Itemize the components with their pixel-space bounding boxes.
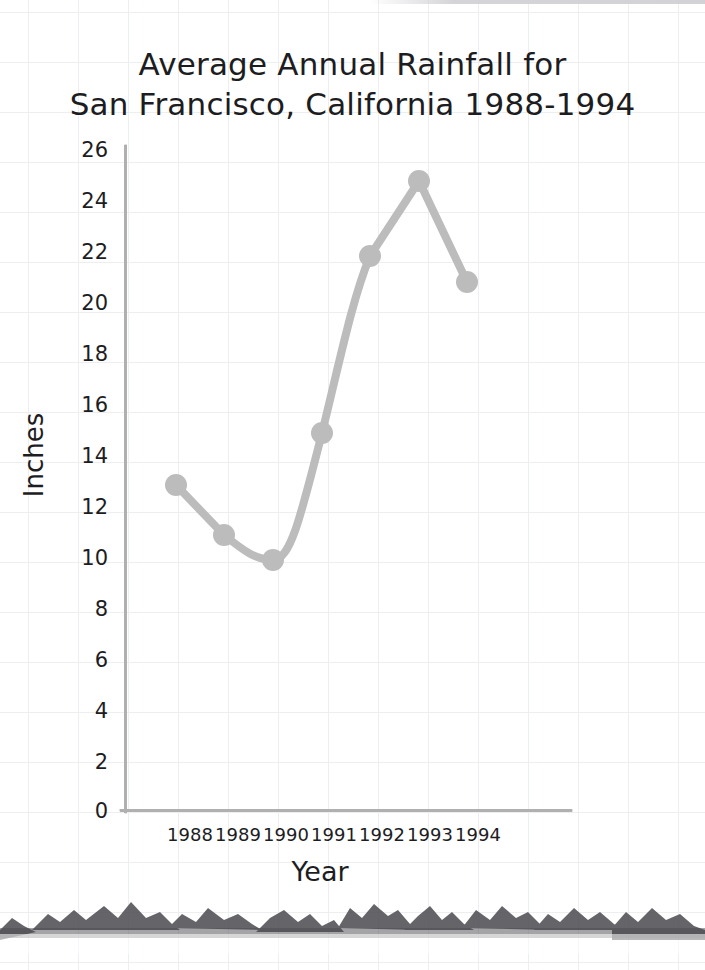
y-tick-label: 18 <box>62 342 108 366</box>
y-tick-label: 20 <box>62 291 108 315</box>
data-point-marker[interactable] <box>359 245 381 267</box>
y-tick-label: 6 <box>62 648 108 672</box>
data-point-marker[interactable] <box>408 170 430 192</box>
y-axis-spine <box>125 149 126 809</box>
y-tick-label: 0 <box>62 799 108 823</box>
y-tick-label: 24 <box>62 189 108 213</box>
y-tick-label: 2 <box>62 750 108 774</box>
data-point-marker[interactable] <box>213 524 235 546</box>
x-tick-label: 1994 <box>443 824 513 845</box>
y-tick-label: 4 <box>62 699 108 723</box>
y-tick-label: 26 <box>62 138 108 162</box>
rainfall-data-line <box>176 181 467 560</box>
y-axis-tick-labels: 26 24 22 20 18 16 14 12 10 8 6 4 2 0 <box>62 0 108 970</box>
mountain-border-icon <box>0 884 705 954</box>
data-point-marker[interactable] <box>456 271 478 293</box>
y-axis-title: Inches <box>19 395 49 515</box>
y-tick-label: 14 <box>62 444 108 468</box>
data-point-marker[interactable] <box>311 422 333 444</box>
y-tick-label: 12 <box>62 495 108 519</box>
x-axis-title: Year <box>0 856 640 887</box>
x-axis-spine <box>124 810 568 811</box>
chart-page: Average Annual Rainfall for San Francisc… <box>0 0 705 970</box>
y-tick-label: 10 <box>62 546 108 570</box>
y-tick-label: 8 <box>62 597 108 621</box>
y-tick-label: 22 <box>62 240 108 264</box>
y-tick-label: 16 <box>62 393 108 417</box>
data-point-marker[interactable] <box>262 549 284 571</box>
data-point-marker[interactable] <box>165 474 187 496</box>
chart-plot-area: 26 24 22 20 18 16 14 12 10 8 6 4 2 0 198… <box>0 0 705 970</box>
